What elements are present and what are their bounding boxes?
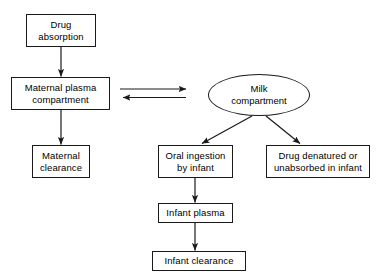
node-drug-absorption: Drug absorption bbox=[26, 14, 96, 47]
node-oral-ingestion-by-infant: Oral ingestion by infant bbox=[158, 145, 233, 178]
flowchart-diagram: Drug absorption Maternal plasma compartm… bbox=[0, 0, 380, 277]
edge-milk-to-oral-ingestion bbox=[202, 116, 252, 144]
node-maternal-plasma-compartment: Maternal plasma compartment bbox=[11, 77, 110, 110]
node-drug-denatured-or-unabsorbed: Drug denatured or unabsorbed in infant bbox=[266, 145, 370, 178]
node-infant-clearance: Infant clearance bbox=[152, 251, 246, 271]
node-infant-plasma: Infant plasma bbox=[158, 203, 233, 223]
node-milk-compartment: Milk compartment bbox=[208, 74, 310, 116]
node-maternal-clearance: Maternal clearance bbox=[32, 145, 90, 178]
edge-milk-to-drug-denatured bbox=[266, 116, 300, 144]
